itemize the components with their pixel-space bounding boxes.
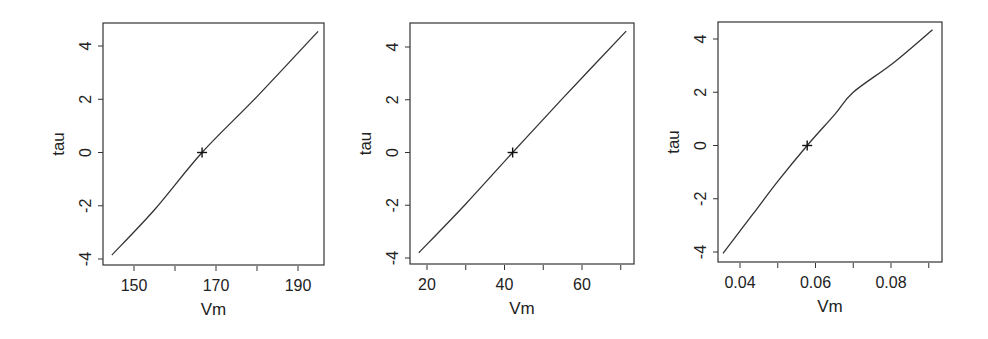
y-axis-label: tau (49, 132, 68, 156)
y-tick-label: 2 (692, 88, 709, 97)
x-tick-label: 150 (121, 277, 148, 294)
y-tick-label: -4 (692, 245, 709, 259)
y-tick-label: -2 (77, 199, 94, 213)
y-tick-label: 2 (77, 95, 94, 104)
y-tick-label: 4 (384, 42, 401, 51)
plot-frame (718, 22, 942, 262)
x-axis: 0.040.060.08 (724, 263, 928, 291)
x-tick-label: 20 (418, 276, 436, 293)
profile-curve (723, 30, 933, 254)
x-axis: 204060 (418, 265, 621, 293)
y-tick-label: 0 (384, 148, 401, 157)
profile-curve (419, 31, 626, 253)
x-tick-label: 60 (573, 276, 591, 293)
x-axis: 150170190 (121, 266, 312, 294)
figure: 150170190Vm-4-2024tau204060Vm-4-2024tau0… (0, 0, 988, 339)
x-tick-label: 0.08 (875, 274, 906, 291)
y-tick-label: 4 (692, 34, 709, 43)
panel-3: 0.040.060.08Vm-4-2024tau (664, 22, 943, 316)
y-axis: -4-2024 (77, 41, 104, 266)
x-axis-label: Vm (509, 299, 535, 318)
plot-frame (103, 23, 324, 265)
panel-1: 150170190Vm-4-2024tau (49, 23, 325, 319)
y-axis: -4-2024 (384, 42, 411, 265)
x-tick-label: 40 (496, 276, 514, 293)
y-axis-label: tau (664, 130, 683, 154)
x-tick-label: 190 (285, 277, 312, 294)
y-axis: -4-2024 (692, 34, 719, 259)
profile-curve (112, 31, 318, 255)
y-axis-label: tau (356, 132, 375, 156)
y-tick-label: 0 (692, 141, 709, 150)
panel-2: 204060Vm-4-2024tau (356, 23, 635, 318)
x-tick-label: 0.04 (724, 274, 755, 291)
y-tick-label: -2 (692, 192, 709, 206)
x-tick-label: 0.06 (800, 274, 831, 291)
x-axis-label: Vm (817, 297, 843, 316)
y-tick-label: 4 (77, 41, 94, 50)
x-axis-label: Vm (201, 300, 227, 319)
y-tick-label: 2 (384, 95, 401, 104)
y-tick-label: -4 (77, 252, 94, 266)
y-tick-label: -2 (384, 198, 401, 212)
x-tick-label: 170 (203, 277, 230, 294)
y-tick-label: -4 (384, 251, 401, 265)
y-tick-label: 0 (77, 148, 94, 157)
